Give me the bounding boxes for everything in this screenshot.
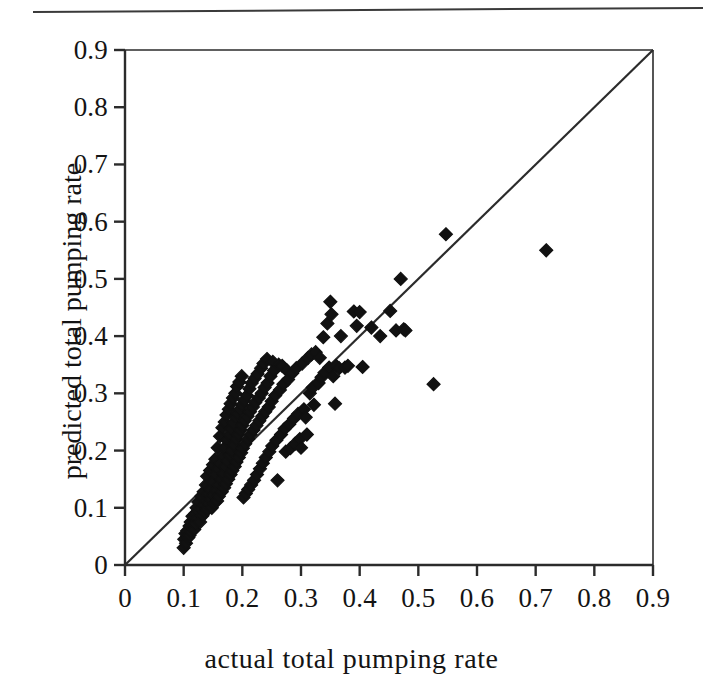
data-point (350, 319, 363, 332)
data-points-group (177, 228, 553, 555)
x-tick-label-9: 0.9 (636, 583, 670, 614)
x-tick-label-1: 0.1 (166, 583, 200, 614)
y-tick-label-9: 0.9 (28, 35, 108, 66)
data-point (271, 474, 284, 487)
figure-container: 00.10.20.30.40.50.60.70.80.9 00.10.20.30… (0, 0, 703, 699)
data-point (365, 321, 378, 334)
data-point (384, 304, 397, 317)
x-tick-label-2: 0.2 (225, 583, 259, 614)
data-point (439, 228, 452, 241)
data-point (324, 295, 337, 308)
x-axis-label: actual total pumping rate (0, 643, 703, 675)
y-tick-label-0: 0 (28, 550, 108, 581)
data-point (427, 378, 440, 391)
x-tick-label-8: 0.8 (577, 583, 611, 614)
data-point (394, 272, 407, 285)
data-point (334, 330, 347, 343)
y-axis-label: predicted total pumping rate (56, 121, 88, 521)
x-tick-label-0: 0 (118, 583, 132, 614)
x-tick-label-6: 0.6 (460, 583, 494, 614)
x-tick-label-7: 0.7 (518, 583, 552, 614)
x-tick-label-4: 0.4 (342, 583, 376, 614)
data-point (329, 397, 342, 410)
x-tick-label-5: 0.5 (401, 583, 435, 614)
data-point (374, 330, 387, 343)
data-point (540, 244, 553, 257)
data-point (317, 331, 330, 344)
y-tick-label-8: 0.8 (28, 92, 108, 123)
x-tick-label-3: 0.3 (284, 583, 318, 614)
data-point (356, 361, 369, 374)
